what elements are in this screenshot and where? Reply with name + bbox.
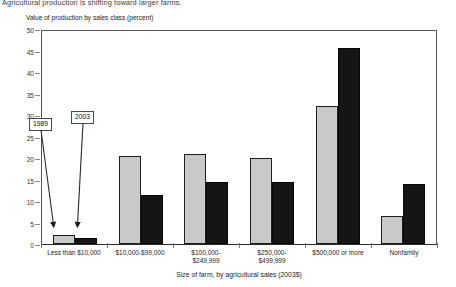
y-axis-tick-label: 35 — [27, 91, 34, 98]
y-axis-tick-label: 50 — [27, 27, 34, 34]
x-axis-category-label: $10,000-$99,000 — [107, 249, 173, 271]
y-axis-tick-label: 15 — [27, 177, 34, 184]
y-axis-tick-label: 0 — [30, 242, 34, 249]
plot-area — [41, 30, 437, 245]
y-axis-tick — [35, 116, 40, 117]
y-axis-tick — [35, 138, 40, 139]
bar-2003 — [141, 195, 163, 244]
bar-2003 — [338, 48, 360, 244]
y-axis-tick — [35, 224, 40, 225]
y-axis-tick-label: 10 — [27, 199, 34, 206]
x-axis-tick — [41, 243, 42, 248]
bar-2003 — [272, 182, 294, 244]
x-axis-tick — [371, 243, 372, 248]
bar-group — [370, 31, 436, 244]
y-axis-tick — [35, 181, 40, 182]
bar-group — [239, 31, 305, 244]
y-axis-tick-label: 40 — [27, 70, 34, 77]
bar-group — [108, 31, 174, 244]
x-axis-tick — [107, 243, 108, 248]
bar-group — [305, 31, 371, 244]
y-axis-tick — [35, 159, 40, 160]
annotation-1989: 1989 — [29, 118, 52, 131]
bar-groups — [42, 31, 436, 244]
x-axis-tick — [437, 243, 438, 248]
y-axis: 05101520253035404550 — [0, 0, 41, 287]
bar-group — [173, 31, 239, 244]
y-axis-tick-label: 25 — [27, 134, 34, 141]
bar-1989 — [381, 216, 403, 244]
chart-figure: Agricultural production is shifting towa… — [0, 0, 456, 287]
y-axis-tick — [35, 95, 40, 96]
y-axis-title: Value of production by sales class (perc… — [26, 14, 153, 21]
y-axis-tick-label: 45 — [27, 48, 34, 55]
y-axis-tick — [35, 245, 40, 246]
bar-1989 — [184, 154, 206, 244]
x-axis-category-label: $500,000 or more — [305, 249, 371, 271]
bar-group — [42, 31, 108, 244]
y-axis-tick — [35, 52, 40, 53]
x-axis-category-label: $250,000- $499,999 — [239, 249, 305, 271]
annotation-2003: 2003 — [71, 111, 94, 124]
y-axis-tick — [35, 73, 40, 74]
x-axis-category-label: Less than $10,000 — [41, 249, 107, 271]
x-axis-tick — [239, 243, 240, 248]
bar-1989 — [316, 106, 338, 244]
bar-2003 — [403, 184, 425, 244]
y-axis-tick — [35, 30, 40, 31]
bar-1989 — [119, 156, 141, 244]
x-axis-category-labels: Less than $10,000$10,000-$99,000$100,000… — [41, 249, 437, 271]
x-axis-title: Size of farm, by agricultural sales (200… — [41, 271, 437, 278]
x-axis-category-label: Nonfamily — [371, 249, 437, 271]
bar-1989 — [250, 158, 272, 244]
y-axis-tick-label: 5 — [30, 220, 34, 227]
x-axis-category-label: $100,000- $249,999 — [173, 249, 239, 271]
y-axis-tick — [35, 202, 40, 203]
bar-2003 — [206, 182, 228, 244]
x-axis-tick — [173, 243, 174, 248]
y-axis-tick-label: 20 — [27, 156, 34, 163]
x-axis-tick — [305, 243, 306, 248]
